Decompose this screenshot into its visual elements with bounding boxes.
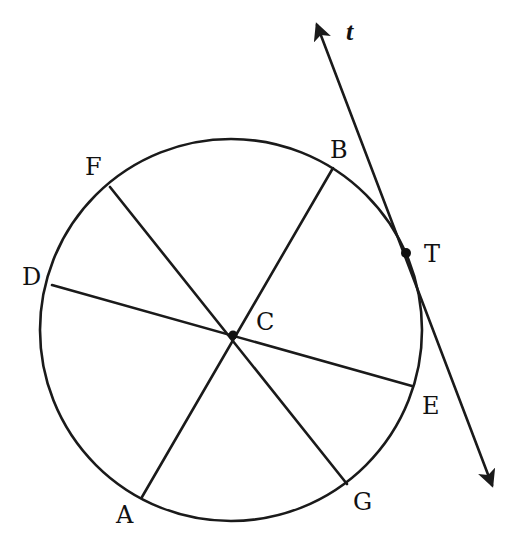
label-c: C: [256, 308, 274, 336]
label-b: B: [330, 136, 348, 164]
diameter-ab: [142, 168, 333, 497]
point-t-dot: [401, 248, 411, 258]
label-t: T: [424, 240, 440, 268]
label-tangent-t: t: [346, 17, 354, 46]
geometry-diagram: B F D C T E G A t: [0, 0, 514, 545]
point-c-dot: [229, 331, 238, 340]
label-e: E: [422, 392, 440, 420]
label-f: F: [85, 153, 102, 181]
label-g: G: [353, 488, 372, 516]
label-a: A: [115, 501, 134, 529]
label-d: D: [22, 263, 41, 291]
diameter-fg: [110, 187, 347, 484]
circle: [40, 139, 422, 521]
